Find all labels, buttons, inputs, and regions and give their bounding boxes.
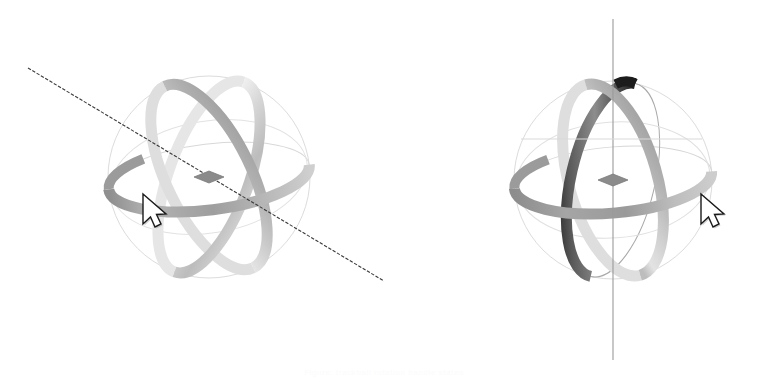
center-pivot-diamond[interactable] <box>598 174 628 186</box>
equator-band-backedge[interactable] <box>106 159 147 189</box>
figure-caption: Figure: trackball rotation handle states <box>0 368 768 378</box>
center-pivot-diamond[interactable] <box>194 171 224 183</box>
panel-right-gizmo[interactable] <box>384 0 768 384</box>
panel-left-gizmo[interactable] <box>0 0 384 384</box>
equator-band-backedge[interactable] <box>512 160 550 189</box>
left-gizmo-graphic[interactable] <box>0 0 384 384</box>
left-band-group-back[interactable] <box>127 68 253 286</box>
gizmo-comparison-stage: Figure: trackball rotation handle states <box>0 0 768 384</box>
right-gizmo-graphic[interactable] <box>384 0 768 384</box>
